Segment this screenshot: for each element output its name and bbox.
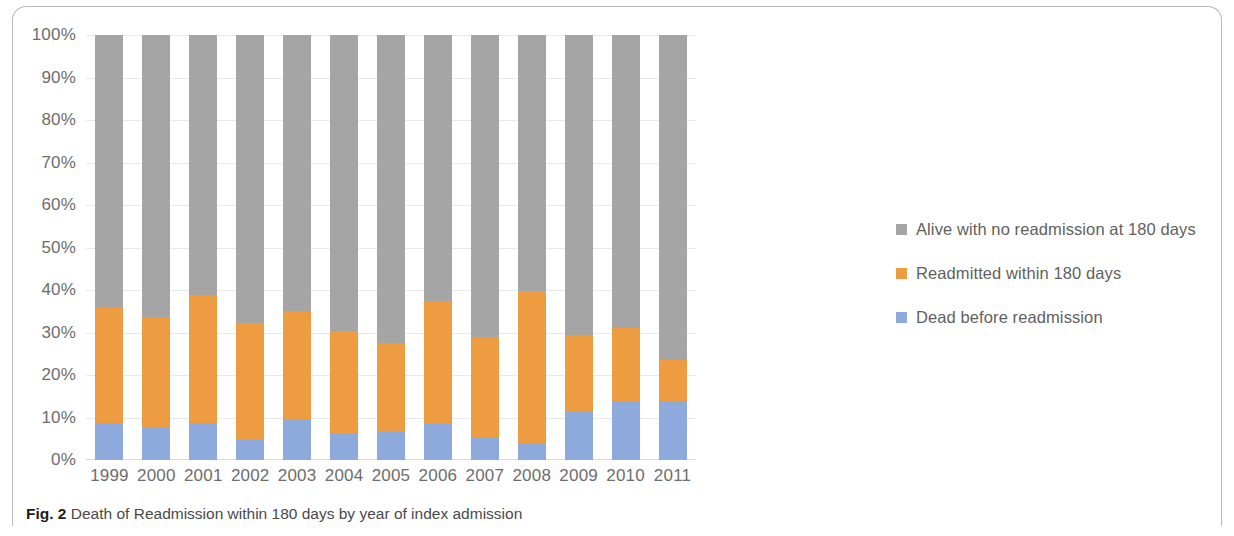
stacked-bar[interactable] bbox=[283, 35, 311, 460]
bar-segment[interactable] bbox=[95, 423, 123, 460]
stacked-bar[interactable] bbox=[236, 35, 264, 460]
bar-segment[interactable] bbox=[283, 420, 311, 460]
x-axis-tick-label: 2004 bbox=[321, 466, 368, 486]
bar-slot bbox=[649, 35, 696, 460]
x-axis-tick-label: 2008 bbox=[508, 466, 555, 486]
stacked-bar[interactable] bbox=[565, 35, 593, 460]
x-axis-tick-label: 2005 bbox=[368, 466, 415, 486]
legend-item[interactable]: Alive with no readmission at 180 days bbox=[896, 212, 1226, 246]
legend-item-label: Readmitted within 180 days bbox=[916, 264, 1121, 283]
y-axis-tick-label: 90% bbox=[0, 68, 76, 88]
bar-slot bbox=[274, 35, 321, 460]
x-axis-tick-label: 2007 bbox=[461, 466, 508, 486]
y-axis-tick-label: 40% bbox=[0, 280, 76, 300]
x-axis-tick-label: 2006 bbox=[414, 466, 461, 486]
bar-segment[interactable] bbox=[377, 432, 405, 460]
bar-segment[interactable] bbox=[236, 35, 264, 323]
y-axis-tick-label: 70% bbox=[0, 153, 76, 173]
bar-segment[interactable] bbox=[659, 401, 687, 460]
bar-segment[interactable] bbox=[330, 434, 358, 460]
bar-segment[interactable] bbox=[518, 291, 546, 444]
plot-area bbox=[86, 35, 696, 460]
y-axis-tick-label: 20% bbox=[0, 365, 76, 385]
bar-slot bbox=[180, 35, 227, 460]
bar-slot bbox=[133, 35, 180, 460]
y-axis-tick-label: 0% bbox=[0, 450, 76, 470]
bar-segment[interactable] bbox=[612, 35, 640, 328]
stacked-bar[interactable] bbox=[330, 35, 358, 460]
x-axis-tick-label: 2009 bbox=[555, 466, 602, 486]
bar-slot bbox=[368, 35, 415, 460]
legend-swatch-icon bbox=[896, 268, 907, 279]
y-axis-tick-label: 60% bbox=[0, 195, 76, 215]
bar-segment[interactable] bbox=[377, 35, 405, 343]
legend-swatch-icon bbox=[896, 224, 907, 235]
bar-segment[interactable] bbox=[659, 35, 687, 360]
x-axis-labels: 1999200020012002200320042005200620072008… bbox=[86, 466, 696, 486]
bar-segment[interactable] bbox=[142, 35, 170, 317]
y-axis-tick-label: 10% bbox=[0, 408, 76, 428]
figure-container: 100%90%80%70%60%50%40%30%20%10%0% 199920… bbox=[0, 0, 1234, 536]
bar-segment[interactable] bbox=[565, 335, 593, 412]
bar-segment[interactable] bbox=[95, 308, 123, 423]
legend-item[interactable]: Dead before readmission bbox=[896, 300, 1226, 334]
legend-item[interactable]: Readmitted within 180 days bbox=[896, 256, 1226, 290]
legend-item-label: Alive with no readmission at 180 days bbox=[916, 220, 1196, 239]
chart-legend: Alive with no readmission at 180 daysRea… bbox=[896, 212, 1226, 344]
bar-segment[interactable] bbox=[142, 428, 170, 460]
bar-segment[interactable] bbox=[330, 35, 358, 331]
bar-slot bbox=[414, 35, 461, 460]
bar-slot bbox=[321, 35, 368, 460]
stacked-bar[interactable] bbox=[189, 35, 217, 460]
stacked-bar[interactable] bbox=[424, 35, 452, 460]
bar-segment[interactable] bbox=[659, 360, 687, 401]
bar-segment[interactable] bbox=[95, 35, 123, 308]
bar-segment[interactable] bbox=[424, 424, 452, 460]
legend-item-label: Dead before readmission bbox=[916, 308, 1103, 327]
bar-segment[interactable] bbox=[330, 331, 358, 434]
bar-segment[interactable] bbox=[236, 440, 264, 460]
y-axis-tick-label: 30% bbox=[0, 323, 76, 343]
bar-slot bbox=[602, 35, 649, 460]
bar-slot bbox=[86, 35, 133, 460]
stacked-bar[interactable] bbox=[659, 35, 687, 460]
y-axis-tick-label: 50% bbox=[0, 238, 76, 258]
bar-segment[interactable] bbox=[377, 343, 405, 432]
bar-group bbox=[86, 35, 696, 460]
x-axis-tick-label: 2010 bbox=[602, 466, 649, 486]
bar-segment[interactable] bbox=[283, 311, 311, 420]
x-axis-tick-label: 1999 bbox=[86, 466, 133, 486]
stacked-bar[interactable] bbox=[95, 35, 123, 460]
y-axis-tick-label: 80% bbox=[0, 110, 76, 130]
x-axis-tick-label: 2001 bbox=[180, 466, 227, 486]
bar-segment[interactable] bbox=[424, 301, 452, 424]
y-axis-labels: 100%90%80%70%60%50%40%30%20%10%0% bbox=[0, 35, 76, 460]
bar-segment[interactable] bbox=[518, 35, 546, 291]
bar-segment[interactable] bbox=[189, 35, 217, 295]
bar-segment[interactable] bbox=[612, 328, 640, 401]
bar-segment[interactable] bbox=[612, 401, 640, 460]
stacked-bar[interactable] bbox=[518, 35, 546, 460]
bar-segment[interactable] bbox=[471, 437, 499, 460]
stacked-bar[interactable] bbox=[612, 35, 640, 460]
bar-segment[interactable] bbox=[189, 295, 217, 423]
bar-segment[interactable] bbox=[424, 35, 452, 301]
x-axis-tick-label: 2000 bbox=[133, 466, 180, 486]
bar-segment[interactable] bbox=[518, 443, 546, 460]
bar-segment[interactable] bbox=[471, 35, 499, 337]
figure-number: Fig. 2 bbox=[26, 505, 66, 522]
bar-segment[interactable] bbox=[142, 317, 170, 428]
stacked-bar[interactable] bbox=[142, 35, 170, 460]
bar-segment[interactable] bbox=[471, 337, 499, 437]
bar-segment[interactable] bbox=[565, 35, 593, 335]
bar-slot bbox=[555, 35, 602, 460]
x-axis-tick-label: 2003 bbox=[274, 466, 321, 486]
bar-segment[interactable] bbox=[236, 323, 264, 440]
bar-segment[interactable] bbox=[189, 423, 217, 460]
bar-segment[interactable] bbox=[565, 412, 593, 460]
stacked-bar[interactable] bbox=[471, 35, 499, 460]
bar-slot bbox=[508, 35, 555, 460]
stacked-bar[interactable] bbox=[377, 35, 405, 460]
legend-swatch-icon bbox=[896, 312, 907, 323]
bar-segment[interactable] bbox=[283, 35, 311, 311]
